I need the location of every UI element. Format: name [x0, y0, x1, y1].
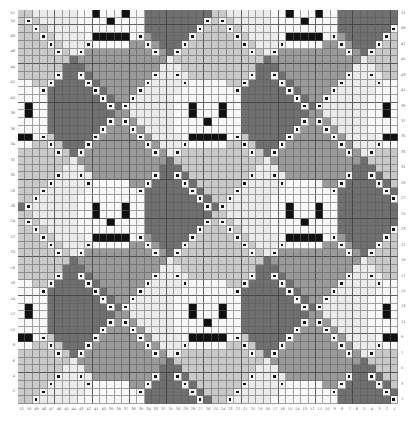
chart-cell-dot[interactable]	[338, 381, 345, 389]
chart-cell-white[interactable]	[40, 327, 47, 335]
chart-cell-white[interactable]	[204, 103, 211, 111]
chart-cell[interactable]	[204, 33, 211, 41]
chart-cell[interactable]	[256, 126, 263, 134]
chart-cell[interactable]	[130, 288, 137, 296]
chart-cell-white[interactable]	[316, 18, 323, 26]
chart-cell[interactable]	[160, 334, 167, 342]
chart-cell[interactable]	[376, 64, 383, 72]
chart-cell[interactable]	[152, 389, 159, 397]
chart-cell-white[interactable]	[100, 381, 107, 389]
chart-cell-white[interactable]	[115, 180, 122, 188]
chart-cell[interactable]	[301, 110, 308, 118]
chart-cell-white[interactable]	[40, 304, 47, 312]
chart-cell-dot[interactable]	[376, 280, 383, 288]
chart-cell-black[interactable]	[93, 33, 100, 41]
chart-cell-white[interactable]	[40, 296, 47, 304]
chart-cell-dot[interactable]	[197, 226, 204, 234]
chart-cell[interactable]	[152, 110, 159, 118]
chart-cell[interactable]	[70, 396, 77, 404]
chart-cell-dot[interactable]	[40, 234, 47, 242]
chart-cell[interactable]	[160, 342, 167, 350]
chart-cell-white[interactable]	[294, 219, 301, 227]
chart-cell-dot[interactable]	[174, 72, 181, 80]
chart-cell[interactable]	[227, 41, 234, 49]
chart-cell-white[interactable]	[85, 219, 92, 227]
chart-cell[interactable]	[361, 141, 368, 149]
chart-cell-dot[interactable]	[204, 219, 211, 227]
chart-cell[interactable]	[182, 203, 189, 211]
chart-cell[interactable]	[361, 87, 368, 95]
chart-cell[interactable]	[234, 280, 241, 288]
chart-cell-dot[interactable]	[182, 381, 189, 389]
chart-cell-white[interactable]	[130, 211, 137, 219]
chart-cell-white[interactable]	[212, 103, 219, 111]
chart-cell[interactable]	[167, 80, 174, 88]
chart-cell[interactable]	[271, 296, 278, 304]
chart-cell[interactable]	[160, 373, 167, 381]
chart-cell[interactable]	[197, 10, 204, 18]
chart-cell-white[interactable]	[309, 188, 316, 196]
chart-cell[interactable]	[174, 381, 181, 389]
chart-cell[interactable]	[85, 288, 92, 296]
chart-cell[interactable]	[85, 350, 92, 358]
chart-cell[interactable]	[48, 327, 55, 335]
chart-cell[interactable]	[353, 188, 360, 196]
chart-cell[interactable]	[234, 41, 241, 49]
chart-cell[interactable]	[301, 334, 308, 342]
chart-cell[interactable]	[346, 296, 353, 304]
chart-cell[interactable]	[160, 242, 167, 250]
chart-cell[interactable]	[152, 118, 159, 126]
chart-cell[interactable]	[316, 342, 323, 350]
chart-cell[interactable]	[294, 134, 301, 142]
chart-cell[interactable]	[25, 257, 32, 265]
chart-cell[interactable]	[219, 72, 226, 80]
chart-cell[interactable]	[145, 350, 152, 358]
chart-cell[interactable]	[242, 358, 249, 366]
chart-cell[interactable]	[18, 350, 25, 358]
chart-cell[interactable]	[152, 311, 159, 319]
chart-cell[interactable]	[55, 203, 62, 211]
chart-cell-dot[interactable]	[271, 249, 278, 257]
chart-cell[interactable]	[227, 358, 234, 366]
chart-cell[interactable]	[189, 373, 196, 381]
chart-cell[interactable]	[145, 18, 152, 26]
chart-cell-white[interactable]	[204, 87, 211, 95]
chart-cell[interactable]	[368, 203, 375, 211]
chart-cell[interactable]	[85, 327, 92, 335]
chart-cell-dot[interactable]	[346, 149, 353, 157]
chart-cell[interactable]	[137, 141, 144, 149]
chart-cell[interactable]	[361, 327, 368, 335]
chart-cell-dot[interactable]	[249, 172, 256, 180]
chart-cell-white[interactable]	[391, 311, 398, 319]
chart-cell[interactable]	[70, 249, 77, 257]
chart-cell[interactable]	[256, 49, 263, 57]
chart-cell[interactable]	[189, 365, 196, 373]
chart-cell[interactable]	[130, 365, 137, 373]
chart-cell[interactable]	[78, 165, 85, 173]
chart-cell-white[interactable]	[40, 126, 47, 134]
chart-cell[interactable]	[271, 234, 278, 242]
chart-cell-dot[interactable]	[182, 242, 189, 250]
chart-cell[interactable]	[40, 203, 47, 211]
chart-cell-white[interactable]	[279, 234, 286, 242]
chart-cell[interactable]	[242, 389, 249, 397]
chart-cell[interactable]	[368, 188, 375, 196]
chart-cell-white[interactable]	[18, 103, 25, 111]
chart-cell[interactable]	[338, 319, 345, 327]
chart-cell[interactable]	[63, 25, 70, 33]
chart-cell-white[interactable]	[93, 18, 100, 26]
chart-cell[interactable]	[145, 396, 152, 404]
chart-cell[interactable]	[219, 149, 226, 157]
chart-cell-dot[interactable]	[55, 373, 62, 381]
chart-cell[interactable]	[242, 172, 249, 180]
chart-cell[interactable]	[100, 134, 107, 142]
chart-cell[interactable]	[48, 10, 55, 18]
chart-cell[interactable]	[368, 18, 375, 26]
chart-cell[interactable]	[107, 311, 114, 319]
chart-cell[interactable]	[391, 33, 398, 41]
chart-cell[interactable]	[383, 165, 390, 173]
chart-cell[interactable]	[78, 126, 85, 134]
chart-cell-dot[interactable]	[93, 87, 100, 95]
chart-cell[interactable]	[85, 273, 92, 281]
chart-cell[interactable]	[212, 358, 219, 366]
